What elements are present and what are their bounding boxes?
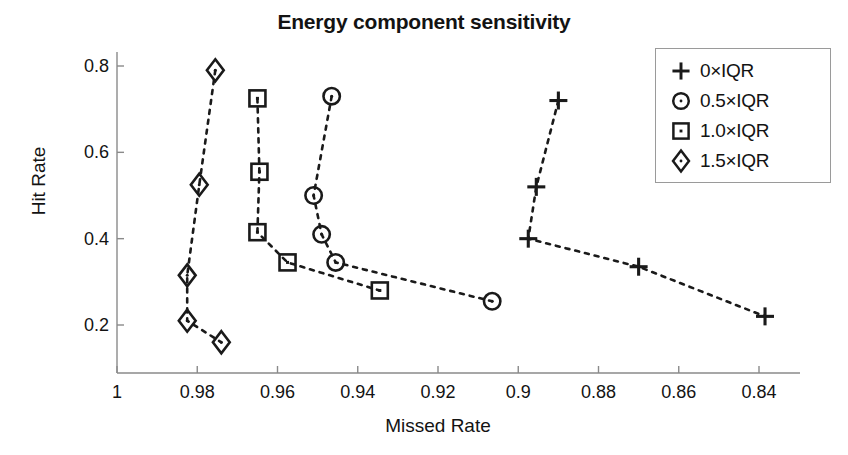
x-axis-label: Missed Rate [117, 415, 759, 437]
x-tick-label: 0.92 [420, 382, 455, 403]
plus-marker [519, 230, 537, 248]
circle-marker [323, 88, 339, 104]
plus-marker [672, 62, 689, 79]
y-tick-label: 0.6 [59, 142, 109, 163]
diamond-marker-icon [666, 148, 696, 174]
plus-marker [630, 258, 648, 276]
circle-marker [673, 93, 689, 109]
circle-marker [327, 254, 343, 270]
x-tick-label: 0.84 [741, 382, 776, 403]
plus-marker [549, 92, 567, 110]
x-tick-label: 0.98 [180, 382, 215, 403]
legend-item-label: 0×IQR [700, 60, 754, 82]
diamond-marker [207, 59, 224, 81]
circle-marker [484, 293, 500, 309]
legend-item-1[interactable]: 0.5×IQR [666, 86, 830, 116]
x-tick-label: 0.94 [340, 382, 375, 403]
y-tick-label: 0.8 [59, 56, 109, 77]
diamond-marker [213, 331, 230, 353]
x-tick-label: 0.86 [661, 382, 696, 403]
square-marker-icon [666, 118, 696, 144]
chart-figure: Energy component sensitivity Hit Rate Mi… [0, 0, 848, 455]
plus-marker [756, 307, 774, 325]
series-1 [305, 88, 500, 309]
legend-item-0[interactable]: 0×IQR [666, 56, 830, 86]
y-tick-label: 0.4 [59, 228, 109, 249]
chart-legend: 0×IQR 0.5×IQR 1.0×IQR 1.5×IQR [655, 48, 831, 183]
square-marker [249, 90, 265, 106]
square-marker [280, 254, 296, 270]
x-tick-label: 0.9 [506, 382, 531, 403]
x-tick-label: 0.96 [260, 382, 295, 403]
square-marker [673, 123, 688, 138]
y-tick-label: 0.2 [59, 315, 109, 336]
legend-item-label: 1.5×IQR [700, 150, 769, 172]
series-2 [249, 90, 387, 298]
legend-item-3[interactable]: 1.5×IQR [666, 146, 830, 176]
circle-marker [305, 187, 321, 203]
x-tick-label: 1 [112, 382, 122, 403]
x-tick-label: 0.88 [581, 382, 616, 403]
y-axis-label: Hit Rate [28, 126, 50, 236]
legend-item-2[interactable]: 1.0×IQR [666, 116, 830, 146]
plus-marker-icon [666, 58, 696, 84]
legend-item-label: 0.5×IQR [700, 90, 769, 112]
legend-item-label: 1.0×IQR [700, 120, 769, 142]
series-3 [179, 59, 230, 353]
plus-marker [527, 178, 545, 196]
square-marker [372, 282, 388, 298]
circle-marker [313, 226, 329, 242]
circle-marker-icon [666, 88, 696, 114]
diamond-marker [673, 151, 689, 172]
